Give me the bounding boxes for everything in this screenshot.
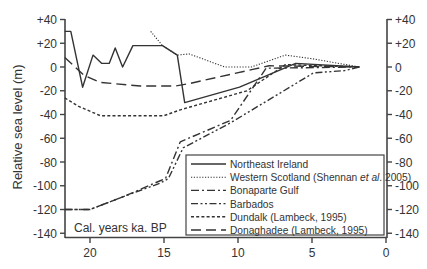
- series-line: [65, 65, 360, 116]
- legend-label: Dundalk (Lambeck, 1995): [230, 212, 347, 223]
- legend-label: Northeast Ireland: [230, 159, 308, 170]
- y-tick-label-left: +20: [37, 37, 58, 51]
- x-tick-label: 0: [383, 246, 390, 260]
- y-tick-label-right: -80: [395, 156, 413, 170]
- y-tick-label-right: -120: [395, 203, 419, 217]
- y-tick-label-right: +40: [395, 13, 416, 27]
- left-y-axis: +40+200-20-40-60-80-100-120-140: [33, 13, 65, 241]
- right-y-axis: +40+200-20-40-60-80-100-120-140: [387, 13, 419, 241]
- legend-label: Barbados: [230, 199, 274, 210]
- y-tick-label-right: -40: [395, 108, 413, 122]
- y-tick-label-left: -100: [33, 179, 57, 193]
- x-tick-label: 15: [157, 246, 171, 260]
- y-tick-label-right: -140: [395, 227, 419, 241]
- y-tick-label-left: +40: [37, 13, 58, 27]
- y-tick-label-right: -60: [395, 132, 413, 146]
- legend-label: Western Scotland (Shennan et al. 2005): [230, 172, 411, 183]
- y-tick-label-left: -20: [40, 84, 58, 98]
- y-tick-label-right: 0: [395, 61, 402, 75]
- y-tick-label-left: -40: [40, 108, 58, 122]
- y-tick-label-left: 0: [50, 61, 57, 75]
- legend-label: Donaghadee (Lambeck, 1995): [230, 225, 368, 236]
- x-axis: 20151050: [65, 238, 390, 261]
- y-tick-label-right: -20: [395, 84, 413, 98]
- x-axis-label: Cal. years ka. BP: [74, 221, 167, 235]
- y-tick-label-left: -120: [33, 203, 57, 217]
- series-line: [65, 58, 360, 87]
- legend: Northeast IrelandWestern Scotland (Shenn…: [186, 155, 411, 236]
- y-tick-label-left: -80: [40, 156, 58, 170]
- sea-level-chart: +40+200-20-40-60-80-100-120-140 +40+200-…: [0, 0, 427, 269]
- y-tick-label-left: -60: [40, 132, 58, 146]
- y-axis-label: Relative sea level (m): [10, 65, 25, 190]
- y-tick-label-right: +20: [395, 37, 416, 51]
- y-tick-label-left: -140: [33, 227, 57, 241]
- x-tick-label: 10: [231, 246, 245, 260]
- series-line: [151, 31, 360, 67]
- x-tick-label: 5: [309, 246, 316, 260]
- x-tick-label: 20: [83, 246, 97, 260]
- legend-label: Bonaparte Gulf: [230, 185, 299, 196]
